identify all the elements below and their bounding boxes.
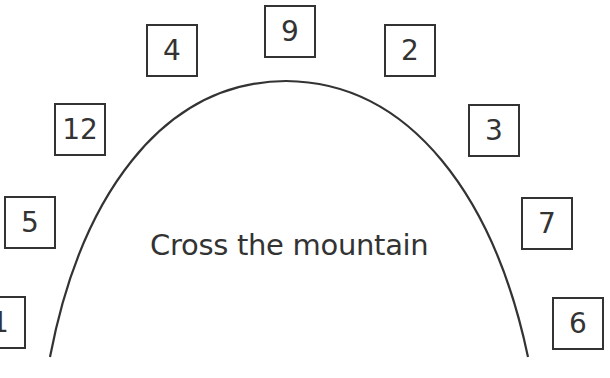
- number-box-2[interactable]: 2: [384, 24, 436, 77]
- number-box-3[interactable]: 3: [468, 104, 520, 157]
- number-box-1[interactable]: 1: [0, 296, 26, 349]
- number-box-12[interactable]: 12: [54, 103, 106, 156]
- mountain-worksheet: Cross the mountain 1 5 12 4 9 2 3 7 6: [0, 0, 610, 378]
- number-box-6[interactable]: 6: [552, 297, 604, 350]
- number-box-7[interactable]: 7: [521, 197, 573, 250]
- worksheet-title: Cross the mountain: [150, 228, 440, 262]
- number-box-4[interactable]: 4: [146, 24, 198, 77]
- number-box-5[interactable]: 5: [4, 196, 56, 249]
- number-box-9[interactable]: 9: [264, 5, 316, 58]
